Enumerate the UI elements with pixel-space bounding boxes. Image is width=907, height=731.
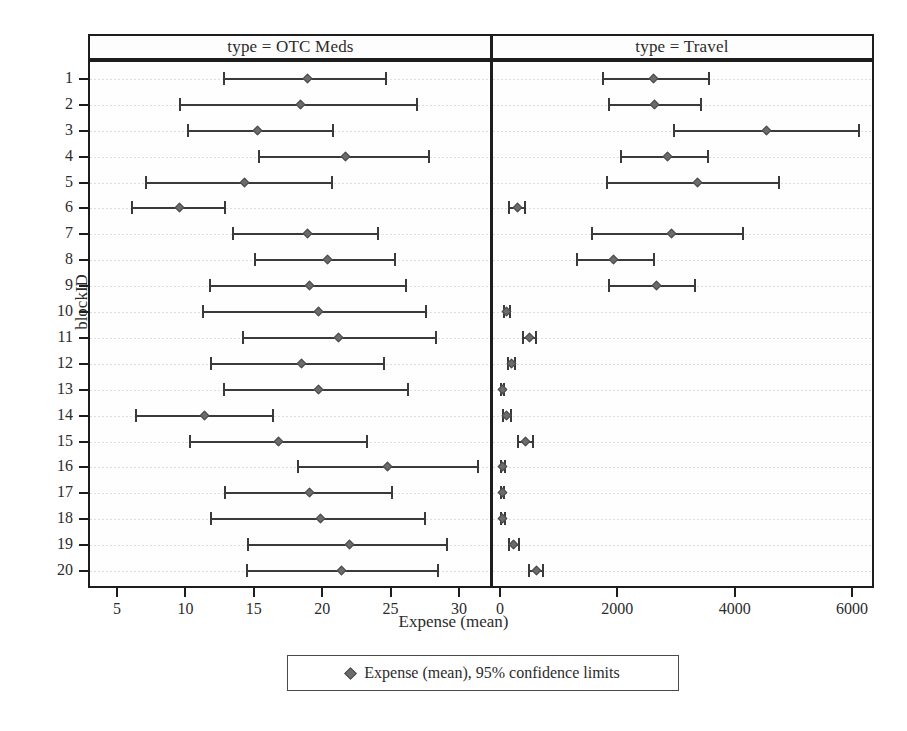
lower-cap	[602, 72, 604, 85]
mean-marker	[302, 74, 312, 84]
lower-cap	[223, 72, 225, 85]
upper-cap	[653, 253, 655, 266]
lower-cap	[246, 564, 248, 577]
x-axis-tick	[390, 588, 392, 597]
y-axis-tick	[79, 104, 88, 106]
mean-marker	[651, 281, 661, 291]
y-axis-tick-label: 19	[33, 536, 73, 552]
upper-cap	[224, 201, 226, 214]
mean-marker	[253, 125, 263, 135]
y-axis-label: blockID	[72, 242, 92, 362]
y-axis-tick-label: 10	[33, 303, 73, 319]
mean-marker	[524, 332, 534, 342]
y-axis-tick-label: 5	[33, 174, 73, 190]
y-axis-tick-label: 13	[33, 381, 73, 397]
x-axis-tick	[116, 588, 118, 597]
lower-cap	[608, 98, 610, 111]
upper-cap	[707, 150, 709, 163]
mean-marker	[305, 488, 315, 498]
upper-cap	[532, 435, 534, 448]
upper-cap	[377, 227, 379, 240]
mean-marker	[345, 540, 355, 550]
lower-cap	[247, 538, 249, 551]
mean-marker	[313, 307, 323, 317]
gridline	[493, 260, 872, 261]
upper-cap	[366, 435, 368, 448]
y-axis-tick	[79, 441, 88, 443]
upper-cap	[708, 72, 710, 85]
mean-marker	[663, 151, 673, 161]
lower-cap	[608, 279, 610, 292]
y-axis-tick	[79, 466, 88, 468]
y-axis-tick	[79, 544, 88, 546]
panel-header-otc-meds: type = OTC Meds	[88, 34, 493, 60]
mean-marker	[297, 358, 307, 368]
gridline	[493, 416, 872, 417]
gridline	[493, 493, 872, 494]
mean-marker	[512, 203, 522, 213]
y-axis-tick-label: 14	[33, 407, 73, 423]
gridline	[493, 519, 872, 520]
x-axis-tick	[851, 588, 853, 597]
lower-cap	[606, 176, 608, 189]
mean-marker	[761, 125, 771, 135]
y-axis-tick	[79, 492, 88, 494]
y-axis-tick	[79, 570, 88, 572]
y-axis-tick	[79, 207, 88, 209]
upper-cap	[383, 357, 385, 370]
lower-cap	[620, 150, 622, 163]
lower-cap	[223, 383, 225, 396]
y-axis-tick-label: 12	[33, 355, 73, 371]
mean-marker	[341, 151, 351, 161]
lower-cap	[202, 305, 204, 318]
mean-marker	[649, 74, 659, 84]
mean-marker	[531, 566, 541, 576]
y-axis-tick-label: 16	[33, 458, 73, 474]
x-axis-tick	[321, 588, 323, 597]
lower-cap	[258, 150, 260, 163]
upper-cap	[477, 460, 479, 473]
lower-cap	[576, 253, 578, 266]
lower-cap	[224, 486, 226, 499]
lower-cap	[210, 357, 212, 370]
mean-marker	[295, 99, 305, 109]
mean-marker	[334, 332, 344, 342]
y-axis-tick-label: 17	[33, 484, 73, 500]
y-axis-tick-label: 11	[33, 329, 73, 345]
lower-cap	[209, 279, 211, 292]
upper-cap	[542, 564, 544, 577]
y-axis-tick-label: 15	[33, 433, 73, 449]
gridline	[493, 312, 872, 313]
mean-marker	[302, 229, 312, 239]
y-axis-tick	[79, 130, 88, 132]
x-axis-tick	[458, 588, 460, 597]
lower-cap	[254, 253, 256, 266]
upper-cap	[272, 409, 274, 422]
upper-cap	[694, 279, 696, 292]
y-axis-tick	[79, 182, 88, 184]
x-axis-tick	[616, 588, 618, 597]
panel-header-travel: type = Travel	[490, 34, 874, 60]
mean-marker	[305, 281, 315, 291]
upper-cap	[524, 201, 526, 214]
y-axis-tick-label: 1	[33, 70, 73, 86]
mean-marker	[692, 177, 702, 187]
y-axis-tick	[79, 78, 88, 80]
upper-cap	[394, 253, 396, 266]
panel-otc-meds	[90, 62, 490, 586]
mean-marker	[316, 514, 326, 524]
y-axis-tick	[79, 518, 88, 520]
upper-cap	[778, 176, 780, 189]
y-axis-tick-label: 9	[33, 277, 73, 293]
mean-marker	[175, 203, 185, 213]
lower-cap	[517, 435, 519, 448]
upper-cap	[435, 331, 437, 344]
forest-plot-figure: type = OTC Meds type = Travel 1234567891…	[0, 0, 907, 731]
x-axis-label: Expense (mean)	[0, 612, 907, 632]
gridline	[493, 571, 872, 572]
lower-cap	[242, 331, 244, 344]
legend: Expense (mean), 95% confidence limits	[287, 655, 679, 691]
y-axis-tick	[79, 156, 88, 158]
y-axis-tick-label: 7	[33, 225, 73, 241]
upper-cap	[425, 305, 427, 318]
